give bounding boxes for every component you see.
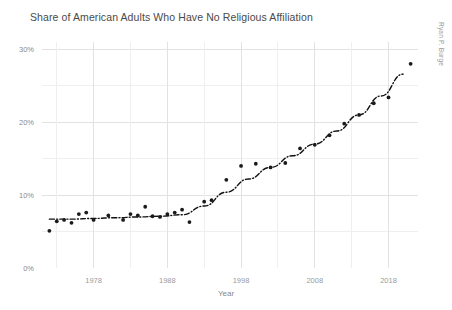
chart-figure: Share of American Adults Who Have No Rel… <box>0 0 452 310</box>
data-point <box>409 62 413 66</box>
y-tick-label: 30% <box>0 45 34 54</box>
gridlines-minor-y <box>42 86 418 232</box>
data-point <box>47 229 51 233</box>
data-point <box>92 218 96 222</box>
data-point <box>210 198 214 202</box>
data-point <box>55 219 59 223</box>
x-tick-label: 1998 <box>221 276 261 285</box>
data-point <box>224 178 228 182</box>
gridlines-major-x <box>94 42 389 268</box>
data-point <box>62 218 66 222</box>
x-axis-label: Year <box>0 289 452 298</box>
data-point <box>254 162 258 166</box>
chart-title: Share of American Adults Who Have No Rel… <box>30 11 313 23</box>
data-point <box>269 165 273 169</box>
plot-svg <box>42 42 418 268</box>
chart-credit: Ryan P. Burge <box>438 22 445 66</box>
data-point <box>158 215 162 219</box>
data-point <box>180 208 184 212</box>
data-point <box>121 218 125 222</box>
y-tick-label: 0% <box>0 264 34 273</box>
trend-line <box>49 74 403 219</box>
data-point <box>70 221 74 225</box>
gridlines-minor-x <box>57 42 352 268</box>
data-point <box>239 164 243 168</box>
data-points <box>47 62 412 233</box>
data-point <box>106 214 110 218</box>
data-point <box>77 212 81 216</box>
data-point <box>143 205 147 209</box>
x-tick-label: 2018 <box>369 276 409 285</box>
y-tick-label: 10% <box>0 191 34 200</box>
y-tick-label: 20% <box>0 118 34 127</box>
data-point <box>387 96 391 100</box>
data-point <box>342 122 346 126</box>
data-point <box>372 101 376 105</box>
data-point <box>136 214 140 218</box>
data-point <box>129 212 133 216</box>
data-point <box>313 143 317 147</box>
x-tick-label: 1988 <box>147 276 187 285</box>
data-point <box>298 147 302 151</box>
data-point <box>328 133 332 137</box>
data-point <box>357 113 361 117</box>
data-point <box>84 211 88 215</box>
data-point <box>151 214 155 218</box>
data-point <box>188 220 192 224</box>
x-tick-label: 1978 <box>74 276 114 285</box>
data-point <box>165 212 169 216</box>
plot-area <box>42 42 418 268</box>
data-point <box>173 211 177 215</box>
data-point <box>283 161 287 165</box>
data-point <box>202 200 206 204</box>
x-tick-label: 2008 <box>295 276 335 285</box>
